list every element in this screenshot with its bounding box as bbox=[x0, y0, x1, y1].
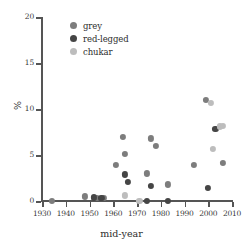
y-tick-mark bbox=[36, 63, 41, 65]
y-tick-mark bbox=[36, 109, 41, 111]
data-point-red-legged bbox=[143, 198, 149, 204]
scatter-chart: greyred-leggedchukar 05101520 1930194019… bbox=[0, 0, 243, 249]
data-point-grey bbox=[191, 162, 197, 168]
x-tick-mark bbox=[232, 202, 234, 207]
data-point-grey bbox=[148, 135, 154, 141]
x-tick-mark bbox=[208, 202, 210, 207]
data-point-grey bbox=[143, 170, 149, 176]
data-point-grey bbox=[48, 198, 54, 204]
x-axis-title: mid-year bbox=[0, 228, 243, 239]
data-point-chukar bbox=[136, 198, 142, 204]
data-point-red-legged bbox=[124, 179, 130, 185]
data-point-red-legged bbox=[122, 171, 128, 177]
y-axis-title: % bbox=[12, 98, 23, 114]
x-tick-mark bbox=[90, 202, 92, 207]
data-point-grey bbox=[113, 162, 119, 168]
y-tick-label: 15 bbox=[8, 58, 34, 67]
x-tick-mark bbox=[185, 202, 187, 207]
y-tick-mark bbox=[36, 17, 41, 19]
y-tick-mark bbox=[36, 201, 41, 203]
data-point-red-legged bbox=[148, 183, 154, 189]
data-point-grey bbox=[165, 181, 171, 187]
x-tick-mark bbox=[42, 202, 44, 207]
data-point-chukar bbox=[219, 122, 225, 128]
x-tick-label: 2010 bbox=[215, 209, 243, 218]
x-tick-mark bbox=[113, 202, 115, 207]
data-point-grey bbox=[120, 134, 126, 140]
data-point-chukar bbox=[210, 145, 216, 151]
y-tick-label: 0 bbox=[8, 196, 34, 205]
y-tick-mark bbox=[36, 155, 41, 157]
y-tick-label: 5 bbox=[8, 150, 34, 159]
x-tick-mark bbox=[161, 202, 163, 207]
plot-area bbox=[42, 17, 232, 201]
data-point-chukar bbox=[122, 192, 128, 198]
data-point-grey bbox=[82, 193, 88, 199]
data-point-grey bbox=[122, 151, 128, 157]
data-point-grey bbox=[153, 143, 159, 149]
data-point-grey bbox=[219, 160, 225, 166]
x-tick-mark bbox=[66, 202, 68, 207]
y-tick-label: 20 bbox=[8, 12, 34, 21]
data-point-chukar bbox=[208, 99, 214, 105]
data-point-red-legged bbox=[165, 198, 171, 204]
data-point-red-legged bbox=[205, 185, 211, 191]
